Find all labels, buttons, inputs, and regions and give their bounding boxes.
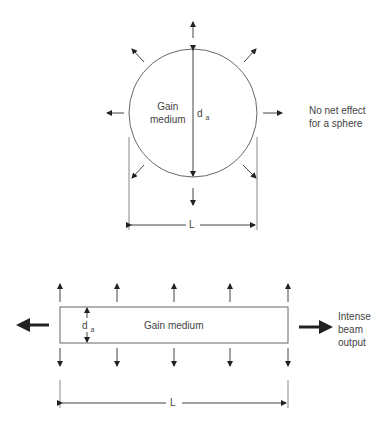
thickness-subscript: a	[91, 326, 95, 333]
rod-medium-label: Gain medium	[144, 319, 203, 332]
beam-output-label: Intense beam output	[338, 310, 371, 349]
rod-length-label: L	[170, 396, 176, 409]
sphere-medium-label: Gain medium	[150, 100, 186, 126]
note-line2: for a sphere	[309, 117, 366, 130]
thickness-symbol: d	[82, 320, 88, 331]
output-line2: beam	[338, 323, 371, 336]
output-line1: Intense	[338, 310, 371, 323]
note-line1: No net effect	[309, 104, 366, 117]
diameter-symbol: d	[197, 108, 203, 119]
rod-thickness-label: da	[82, 319, 94, 333]
diagram-canvas	[0, 0, 389, 423]
sphere-note: No net effect for a sphere	[309, 104, 366, 130]
sphere-medium-line1: Gain	[150, 100, 186, 113]
left-beam-arrow	[16, 318, 49, 332]
right-beam-arrow	[299, 320, 333, 334]
output-line3: output	[338, 336, 371, 349]
sphere-length-label: L	[189, 218, 195, 231]
diameter-subscript: a	[206, 114, 210, 121]
sphere-medium-line2: medium	[150, 113, 186, 126]
sphere-diameter-label: da	[197, 107, 209, 121]
